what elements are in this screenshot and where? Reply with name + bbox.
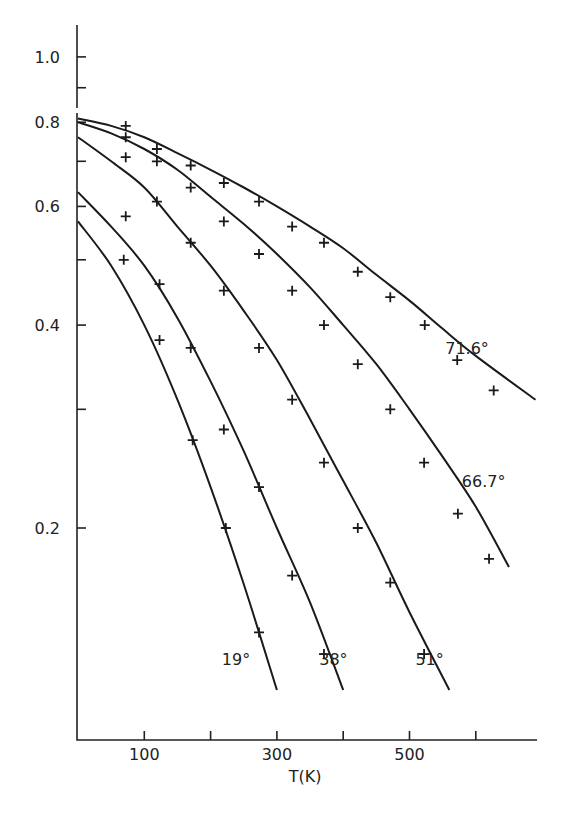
plus-marker-icon [287, 222, 297, 232]
plus-marker-icon [155, 279, 165, 289]
plus-marker-icon [385, 292, 395, 302]
x-tick-label: 500 [394, 745, 425, 764]
plus-marker-icon [188, 435, 198, 445]
plus-marker-icon [353, 359, 363, 369]
plus-marker-icon [219, 425, 229, 435]
plus-marker-icon [119, 255, 129, 265]
plus-marker-icon [353, 267, 363, 277]
plus-marker-icon [287, 571, 297, 581]
plus-marker-icon [155, 335, 165, 345]
plus-marker-icon [287, 395, 297, 405]
curves [78, 119, 536, 690]
plus-marker-icon [420, 320, 430, 330]
plus-marker-icon [319, 320, 329, 330]
plus-marker-icon [254, 627, 264, 637]
curve-label: 19° [222, 650, 250, 669]
plus-marker-icon [254, 343, 264, 353]
plus-marker-icon [489, 385, 499, 395]
x-axis-ticks: 100300500 [129, 731, 476, 764]
x-tick-label: 300 [262, 745, 293, 764]
plus-marker-icon [319, 238, 329, 248]
plus-marker-icon [484, 554, 494, 564]
y-tick-label: 0.4 [35, 316, 60, 335]
plus-marker-icon [186, 343, 196, 353]
plus-marker-icon [353, 523, 363, 533]
x-tick-label: 100 [129, 745, 160, 764]
y-tick-label: 0.8 [35, 113, 60, 132]
plus-marker-icon [287, 286, 297, 296]
plus-marker-icon [219, 216, 229, 226]
axes [77, 25, 537, 740]
plus-marker-icon [121, 152, 131, 162]
curve-51 [78, 137, 449, 690]
curve-labels: 71.6°66.7°51°38°19° [222, 339, 506, 669]
curve-label: 71.6° [445, 339, 489, 358]
plus-marker-icon [385, 404, 395, 414]
plus-marker-icon [254, 482, 264, 492]
plus-marker-icon [121, 211, 131, 221]
data-points [119, 121, 499, 659]
curve-label: 51° [415, 650, 443, 669]
curve-19 [78, 221, 277, 690]
plus-marker-icon [419, 458, 429, 468]
chart: 0.20.40.60.81.0 100300500 71.6°66.7°51°3… [0, 0, 579, 834]
plus-marker-icon [453, 509, 463, 519]
y-axis-lower-and-x-axis [77, 113, 537, 740]
x-axis-label: T(K) [288, 767, 322, 786]
curve-label: 66.7° [462, 472, 506, 491]
plus-marker-icon [221, 523, 231, 533]
plus-marker-icon [319, 458, 329, 468]
curve-label: 38° [319, 650, 347, 669]
y-tick-label: 0.2 [35, 519, 60, 538]
y-tick-label: 1.0 [35, 48, 60, 67]
plus-marker-icon [254, 249, 264, 259]
y-tick-label: 0.6 [35, 197, 60, 216]
